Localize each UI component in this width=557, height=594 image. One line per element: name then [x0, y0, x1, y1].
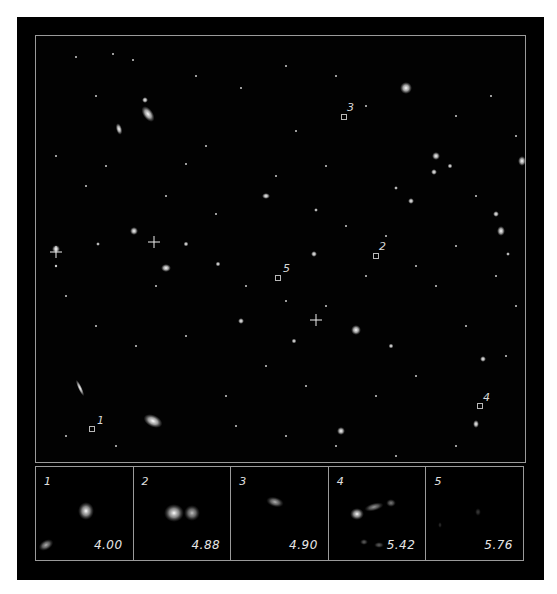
marker-box-2[interactable]	[373, 253, 379, 259]
marker-label-5: 5	[283, 263, 290, 274]
deep-field-image: 1 2 3 4 5	[35, 35, 526, 463]
thumbnail-index: 2	[142, 475, 149, 488]
thumbnail-5[interactable]: 5 5.76	[425, 466, 524, 561]
thumbnail-index: 5	[434, 475, 441, 488]
thumbnail-index: 4	[337, 475, 344, 488]
thumbnail-value: 5.42	[387, 538, 416, 552]
thumbnail-4[interactable]: 4 5.42	[328, 466, 427, 561]
marker-box-5[interactable]	[275, 275, 281, 281]
marker-box-1[interactable]	[89, 426, 95, 432]
thumbnail-index: 1	[44, 475, 51, 488]
marker-label-1: 1	[97, 415, 104, 426]
thumbnail-value: 4.00	[94, 538, 123, 552]
thumbnail-2[interactable]: 2 4.88	[133, 466, 232, 561]
star-field	[36, 36, 526, 463]
thumbnail-index: 3	[239, 475, 246, 488]
thumbnail-value: 4.90	[289, 538, 318, 552]
thumbnail-3[interactable]: 3 4.90	[230, 466, 329, 561]
thumbnail-strip: 1 4.00 2 4.88 3 4.90	[35, 466, 528, 561]
marker-label-4: 4	[483, 392, 490, 403]
marker-label-3: 3	[347, 102, 354, 113]
thumbnail-1[interactable]: 1 4.00	[35, 466, 134, 561]
thumbnail-value: 5.76	[484, 538, 513, 552]
thumbnail-value: 4.88	[191, 538, 220, 552]
figure-panel: 1 2 3 4 5 1 4.00 2 4.88	[17, 17, 544, 580]
marker-box-3[interactable]	[341, 114, 347, 120]
marker-label-2: 2	[379, 241, 386, 252]
